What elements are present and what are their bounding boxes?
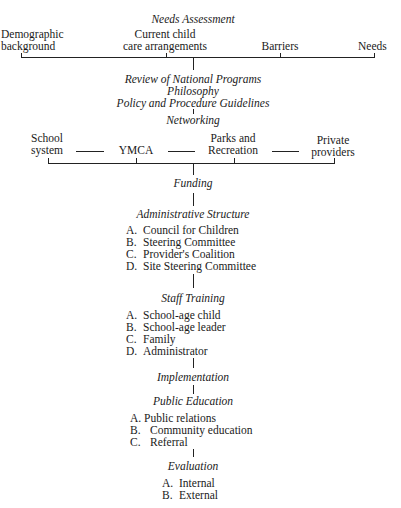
node-line: system (31, 144, 63, 156)
administrative-structure-list: A.Council for Children B.Steering Commit… (126, 224, 256, 272)
list-item: A.Internal (162, 477, 218, 489)
review-national-programs: Review of National Programs (117, 73, 270, 85)
dash-connector (168, 151, 195, 152)
item-letter: A. (126, 309, 143, 321)
administrative-structure-title: Administrative Structure (137, 208, 250, 220)
item-letter: A. (162, 477, 179, 489)
bracket-tick (280, 53, 281, 58)
item-letter: A. (130, 412, 144, 424)
connector-line (193, 57, 194, 70)
list-item: A.School-age child (126, 309, 226, 321)
connector-line (193, 193, 194, 206)
connector-line (193, 274, 194, 288)
funding-title: Funding (174, 177, 213, 189)
node-line: Demographic (1, 28, 64, 40)
node-line: Private (311, 134, 354, 146)
list-item: B.Community education (130, 424, 253, 436)
bracket-tick (234, 158, 235, 164)
item-label: Administrator (143, 345, 208, 357)
item-label: Council for Children (143, 224, 239, 236)
item-label: School-age child (143, 309, 221, 321)
dash-connector (76, 151, 104, 152)
item-label: External (179, 489, 218, 501)
node-private-providers: Private providers (311, 134, 354, 158)
bracket-tick (374, 53, 375, 58)
node-line: Current child (123, 28, 207, 40)
item-letter: B. (162, 489, 179, 501)
needs-bracket-line (21, 57, 375, 58)
list-item: B.School-age leader (126, 321, 226, 333)
node-line: Parks and (208, 132, 258, 144)
item-letter: C. (126, 333, 143, 345)
item-letter: A. (126, 224, 143, 236)
node-barriers: Barriers (261, 40, 298, 52)
node-line: School (31, 132, 63, 144)
list-item: A.Public relations (130, 412, 253, 424)
item-letter: B. (126, 321, 143, 333)
item-letter: B. (130, 424, 150, 436)
bracket-tick (166, 53, 167, 58)
item-label: Provider's Coalition (143, 248, 235, 260)
bracket-tick (21, 53, 22, 58)
list-item: A.Council for Children (126, 224, 256, 236)
staff-training-list: A.School-age child B.School-age leader C… (126, 309, 226, 357)
connector-line (193, 358, 194, 368)
item-label: School-age leader (143, 321, 226, 333)
networking-title: Networking (166, 114, 220, 126)
item-label: Site Steering Committee (143, 260, 256, 272)
item-label: Referral (150, 436, 188, 448)
item-letter: C. (130, 436, 150, 448)
node-school-system: School system (31, 132, 63, 156)
evaluation-list: A.Internal B.External (162, 477, 218, 501)
node-parks-recreation: Parks and Recreation (208, 132, 258, 156)
dash-connector (272, 151, 299, 152)
item-letter: C. (126, 248, 143, 260)
review-philosophy: Philosophy (117, 85, 270, 97)
implementation-title: Implementation (157, 371, 229, 383)
item-label: Public relations (144, 412, 216, 424)
item-letter: B. (126, 236, 143, 248)
evaluation-title: Evaluation (168, 460, 218, 472)
bracket-tick (136, 158, 137, 164)
list-item: B.Steering Committee (126, 236, 256, 248)
list-item: C.Referral (130, 436, 253, 448)
connector-line (193, 385, 194, 394)
node-current-child-care: Current child care arrangements (123, 28, 207, 52)
networking-bracket-line (48, 163, 335, 164)
list-item: D.Site Steering Committee (126, 260, 256, 272)
review-policy-guidelines: Policy and Procedure Guidelines (117, 97, 270, 109)
node-line: care arrangements (123, 40, 207, 52)
list-item: C.Family (126, 333, 226, 345)
node-line: background (1, 40, 64, 52)
connector-line (193, 449, 194, 457)
node-demographic-background: Demographic background (1, 28, 64, 52)
review-block: Review of National Programs Philosophy P… (117, 73, 270, 109)
node-ymca: YMCA (119, 144, 154, 156)
list-item: B.External (162, 489, 218, 501)
item-label: Internal (179, 477, 215, 489)
staff-training-title: Staff Training (161, 292, 225, 304)
node-needs: Needs (358, 40, 387, 52)
node-line: providers (311, 146, 354, 158)
public-education-list: A.Public relations B.Community education… (130, 412, 253, 448)
item-letter: D. (126, 260, 143, 272)
item-letter: D. (126, 345, 143, 357)
item-label: Family (143, 333, 176, 345)
needs-assessment-title: Needs Assessment (151, 13, 234, 25)
list-item: C.Provider's Coalition (126, 248, 256, 260)
bracket-tick (48, 158, 49, 164)
item-label: Steering Committee (143, 236, 235, 248)
item-label: Community education (150, 424, 253, 436)
connector-line (193, 163, 194, 175)
public-education-title: Public Education (153, 395, 233, 407)
list-item: D.Administrator (126, 345, 226, 357)
node-line: Recreation (208, 144, 258, 156)
bracket-tick (334, 158, 335, 164)
